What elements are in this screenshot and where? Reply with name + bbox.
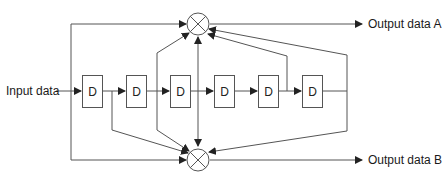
delay-3: D xyxy=(170,75,191,108)
input-label: Input data xyxy=(6,84,59,98)
delay-1: D xyxy=(82,75,103,108)
output-a-label: Output data A xyxy=(368,17,441,31)
delay-4: D xyxy=(214,75,235,108)
delay-5: D xyxy=(258,75,279,108)
xor-adder-b xyxy=(187,149,209,171)
delay-6: D xyxy=(302,75,323,108)
xor-adder-a xyxy=(187,13,209,35)
delay-2: D xyxy=(126,75,147,108)
output-b-label: Output data B xyxy=(368,153,442,167)
